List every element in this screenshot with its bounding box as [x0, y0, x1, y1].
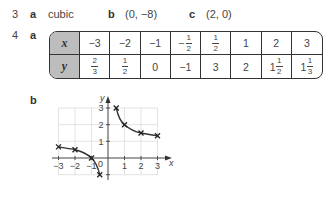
x-tick-label: 3: [155, 161, 160, 171]
y-tick-label: 2: [98, 120, 103, 130]
origin-label: 0: [98, 159, 103, 169]
y-tick-label: 3: [98, 103, 103, 113]
hyperbola-graph: −3 −2 −1 0 1 2 3 1 2 3 x y: [0, 0, 329, 203]
x-tick-label: −2: [70, 161, 80, 171]
x-tick-label: 2: [138, 161, 143, 171]
x-tick-label: 1: [122, 161, 127, 171]
x-tick-label: −3: [53, 161, 63, 171]
y-axis-arrow-icon: [106, 96, 111, 103]
y-axis-label: y: [99, 93, 105, 103]
x-axis-label: x: [168, 158, 174, 168]
y-tick-label: 1: [98, 137, 103, 147]
